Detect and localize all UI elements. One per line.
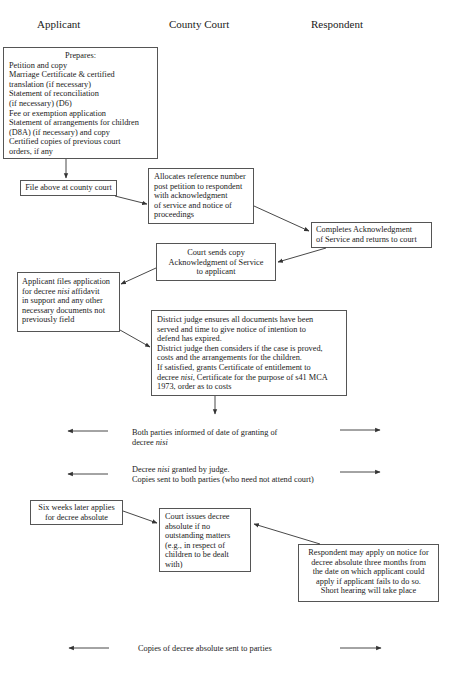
court-issues-line: Court issues decree [165,512,245,522]
applicant-files-box: Applicant files application for decree n… [17,272,120,332]
court-sends-line: Acknowledgment of Service [161,258,271,268]
district-judge-box: District judge ensures all documents hav… [151,310,347,396]
prepares-heading: Prepares: [9,51,152,61]
allocates-line: post petition to respondent [154,182,248,192]
prepares-item: Petition and copy [9,61,152,71]
applicant-files-line: Applicant files application [22,277,115,287]
applicant-files-line: necessary documents not [22,306,115,316]
prepares-item: Statement of reconciliation [9,89,152,99]
arrow-court-sends-to-applicant-files [121,268,156,284]
prepares-item: Fee or exemption application [9,109,152,119]
completes-acknowledgment-box: Completes Acknowledgment of Service and … [311,222,432,248]
district-judge-line: defend has expired. [157,334,341,344]
court-sends-copy-box: Court sends copy Acknowledgment of Servi… [156,243,276,281]
district-judge-line: 1973, order as to costs [157,382,341,392]
completes-line: Completes Acknowledgment [316,225,427,235]
applicant-files-line: for decree nisi affidavit [22,287,115,297]
file-at-court-text: File above at county court [24,183,113,193]
court-issues-line: (e.g., in respect of [165,541,245,551]
district-judge-line: decree nisi, Certificate for the purpose… [157,373,341,383]
prepares-box: Prepares: Petition and copy Marriage Cer… [3,47,158,159]
column-header-applicant: Applicant [37,18,80,30]
applicant-files-line: in support and any other [22,296,115,306]
prepares-item: orders, if any [9,147,152,157]
allocates-line: proceedings [154,210,248,220]
prepares-item: (D8A) (if necessary) and copy [9,128,152,138]
six-weeks-line: Six weeks later applies [34,503,119,513]
respondent-may-line: Short hearing will take place [302,586,435,596]
applicant-files-line: previously field [22,315,115,325]
respondent-may-apply-box: Respondent may apply on notice for decre… [298,544,439,602]
file-at-court-box: File above at county court [20,180,117,196]
allocates-line: of service and notice of [154,201,248,211]
court-issues-line: with) [165,560,245,570]
allocates-line: with acknowledgment [154,191,248,201]
completes-line: of Service and returns to court [316,235,427,245]
six-weeks-line: for decree absolute [34,513,119,523]
arrow-applicant-files-to-district-judge [120,330,150,347]
allocates-reference-box: Allocates reference number post petition… [148,168,254,224]
respondent-may-line: decree absolute three months from [302,558,435,568]
column-header-county-court: County Court [169,18,229,30]
prepares-item: Statement of arrangements for children [9,118,152,128]
arrow-completes-to-court-sends [278,248,326,262]
court-issues-line: outstanding matters [165,531,245,541]
respondent-may-line: apply if applicant fails to do so. [302,577,435,587]
column-header-respondent: Respondent [311,18,363,30]
court-issues-line: absolute if no [165,522,245,532]
prepares-item: Certified copies of previous court [9,137,152,147]
district-judge-line: District judge ensures all documents hav… [157,315,341,325]
decree-nisi-granted-text: Decree nisi granted by judge. Copies sen… [132,465,314,484]
copies-decree-absolute-text: Copies of decree absolute sent to partie… [138,644,272,654]
parties-informed-text: Both parties informed of date of grantin… [132,428,277,447]
arrow-respondent-to-court-issues [254,524,320,544]
prepares-item: translation (if necessary) [9,80,152,90]
allocates-line: Allocates reference number [154,172,248,182]
court-sends-line: to applicant [161,267,271,277]
district-judge-line: District judge then considers if the cas… [157,344,341,354]
district-judge-line: served and time to give notice of intent… [157,325,341,335]
prepares-item: (if necessary) (D6) [9,99,152,109]
court-sends-line: Court sends copy [161,248,271,258]
arrow-six-weeks-to-court-issues [123,511,157,523]
district-judge-line: If satisfied, grants Certificate of enti… [157,363,341,373]
district-judge-line: costs and the arrangements for the child… [157,353,341,363]
arrow-allocates-to-completes [254,206,309,231]
court-issues-decree-box: Court issues decree absolute if no outst… [159,508,251,572]
arrow-file-to-allocates [115,196,147,204]
six-weeks-later-box: Six weeks later applies for decree absol… [30,500,123,525]
respondent-may-line: the date on which applicant could [302,567,435,577]
prepares-item: Marriage Certificate & certified [9,70,152,80]
court-issues-line: children to be dealt [165,550,245,560]
respondent-may-line: Respondent may apply on notice for [302,548,435,558]
